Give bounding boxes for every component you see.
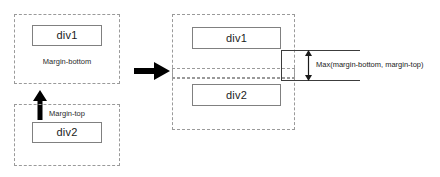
before-div1-box: div1 <box>32 25 102 46</box>
double-headed-vertical-arrow-icon <box>304 50 313 81</box>
after-div2-label: div2 <box>226 90 247 101</box>
dimension-tie-line <box>281 50 282 81</box>
margin-collapse-diagram: div1 Margin-bottom Margin-top div2 div1 … <box>0 0 440 177</box>
after-div2-box: div2 <box>192 84 281 106</box>
arrow-right-icon <box>134 62 170 80</box>
collapsed-margin-dimension-label: Max(margin-bottom, margin-top) <box>316 61 424 69</box>
before-div2-label: div2 <box>57 127 78 138</box>
after-div1-box: div1 <box>192 27 281 49</box>
before-div1-label: div1 <box>57 30 78 41</box>
after-div1-label: div1 <box>226 33 247 44</box>
before-margin-bottom-label: Margin-bottom <box>14 58 120 66</box>
before-margin-top-label: Margin-top <box>14 110 120 118</box>
dimension-extension-line-bottom <box>281 80 360 81</box>
dimension-extension-line-top <box>281 50 360 51</box>
before-div2-box: div2 <box>32 122 102 143</box>
collapsed-margin-seam-top <box>172 68 295 69</box>
collapsed-margin-seam-bottom <box>172 78 295 79</box>
